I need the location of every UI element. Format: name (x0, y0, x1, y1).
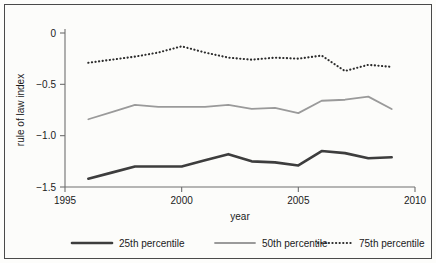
series-line-2 (88, 97, 391, 120)
legend-label-3: 75th percentile (359, 238, 425, 249)
y-tick-label: −0.5 (36, 79, 56, 90)
x-tick-label: 2005 (287, 195, 310, 206)
line-chart: 0−0.5−1.0−1.51995200020052010yearrule of… (0, 0, 436, 263)
legend-item-3: 75th percentile (318, 238, 425, 249)
legend-item-1: 25th percentile (72, 238, 185, 249)
y-axis-title: rule of law index (15, 74, 26, 146)
x-tick-label: 2010 (404, 195, 427, 206)
legend-label-1: 25th percentile (119, 238, 185, 249)
y-tick-label: 0 (50, 28, 56, 39)
series-line-3 (88, 46, 391, 71)
legend-item-2: 50th percentile (215, 238, 328, 249)
chart-figure: 0−0.5−1.0−1.51995200020052010yearrule of… (0, 0, 436, 263)
y-tick-label: −1.5 (36, 182, 56, 193)
x-axis-title: year (230, 211, 250, 222)
x-tick-label: 2000 (171, 195, 194, 206)
x-tick-label: 1995 (54, 195, 77, 206)
y-tick-label: −1.0 (36, 130, 56, 141)
series-line-1 (88, 151, 391, 179)
